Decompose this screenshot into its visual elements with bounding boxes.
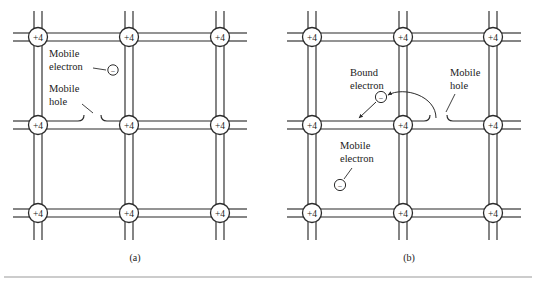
mobile-hole-label-line1: Mobile [49, 83, 80, 94]
atom-label: +4 [398, 209, 408, 219]
atom-label: +4 [488, 121, 498, 131]
bound-electron-sign: − [379, 94, 384, 103]
mobile-electron-label-line1: Mobile [49, 48, 80, 59]
atom-label: +4 [215, 209, 225, 219]
panel-b-mobile-hole-annotation: Mobile hole [446, 67, 481, 112]
atom-label: +4 [124, 121, 134, 131]
panel-b-mobile-electron-annotation: Mobile electron − [334, 140, 374, 191]
mobile-electron-leader-line [93, 68, 106, 70]
mobile-hole-label-line2: hole [49, 96, 67, 107]
panel-a-caption: (a) [129, 252, 140, 264]
bound-electron-arrow [359, 102, 376, 118]
mobile-hole-label-line2: hole [450, 80, 468, 91]
mobile-hole-label-line1: Mobile [450, 67, 481, 78]
atom-label: +4 [398, 33, 408, 43]
atom-label: +4 [488, 209, 498, 219]
panel-b-atoms: +4 +4 +4 +4 +4 +4 +4 +4 +4 [303, 28, 503, 223]
atom-label: +4 [307, 33, 317, 43]
figure-container: +4 +4 +4 +4 +4 +4 +4 +4 +4 Mobil [0, 0, 536, 284]
atom-label: +4 [307, 209, 317, 219]
mobile-electron-leader-line [344, 168, 352, 179]
mobile-electron-sign: − [338, 182, 343, 191]
panel-b-caption: (b) [403, 252, 415, 264]
mobile-hole-leader-line [82, 104, 93, 113]
panel-b-bound-electron-annotation: Bound electron − [350, 67, 436, 118]
mobile-electron-label-line1: Mobile [340, 140, 371, 151]
panel-b: +4 +4 +4 +4 +4 +4 +4 +4 +4 [287, 11, 521, 240]
atom-label: +4 [488, 33, 498, 43]
bound-electron-label-line1: Bound [350, 67, 379, 78]
hole-to-electron-curved-arrow [388, 92, 436, 118]
atom-label: +4 [215, 121, 225, 131]
atom-label: +4 [307, 121, 317, 131]
atom-label: +4 [33, 209, 43, 219]
panel-a-mobile-hole-annotation: Mobile hole [49, 83, 93, 113]
mobile-hole-leader-line [446, 94, 455, 112]
atom-label: +4 [33, 121, 43, 131]
mobile-electron-label-line2: electron [49, 61, 84, 72]
mobile-electron-sign: − [111, 67, 116, 76]
panel-a-mobile-electron-annotation: Mobile electron − [49, 48, 118, 76]
atom-label: +4 [215, 33, 225, 43]
mobile-electron-label-line2: electron [340, 153, 375, 164]
atom-label: +4 [124, 33, 134, 43]
atom-label: +4 [33, 33, 43, 43]
panel-a: +4 +4 +4 +4 +4 +4 +4 +4 +4 Mobil [13, 11, 247, 240]
lattice-diagram: +4 +4 +4 +4 +4 +4 +4 +4 +4 Mobil [0, 0, 536, 284]
atom-label: +4 [124, 209, 134, 219]
atom-label: +4 [398, 121, 408, 131]
bound-electron-label-line2: electron [350, 80, 385, 91]
